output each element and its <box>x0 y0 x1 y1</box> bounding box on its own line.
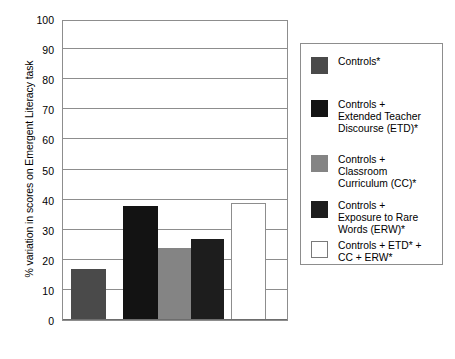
gridline <box>63 108 287 109</box>
legend-item-label: Controls + Extended Teacher Discourse (E… <box>338 99 421 136</box>
y-axis-tick-labels: 0102030405060708090100 <box>0 20 58 321</box>
legend-item: Controls* <box>311 56 380 74</box>
y-axis-tick-label: 20 <box>6 255 58 267</box>
gridline <box>63 169 287 170</box>
gridline <box>63 138 287 139</box>
legend-item-label: Controls* <box>338 56 380 68</box>
plot-area <box>62 20 288 321</box>
y-axis-tick-label: 50 <box>6 165 58 177</box>
legend-item-label: Controls + Classroom Curriculum (CC)* <box>338 154 416 191</box>
legend-item-label: Controls + ETD* + CC + ERW* <box>338 240 422 264</box>
legend-swatch <box>311 155 328 172</box>
bar <box>71 269 106 320</box>
legend-swatch <box>311 100 328 117</box>
gridline <box>63 78 287 79</box>
legend-item: Controls + Extended Teacher Discourse (E… <box>311 99 421 136</box>
legend-box: Controls*Controls + Extended Teacher Dis… <box>300 43 443 265</box>
y-axis-tick-label: 10 <box>6 285 58 297</box>
y-axis-tick-label: 60 <box>6 134 58 146</box>
legend-item-label: Controls + Exposure to Rare Words (ERW)* <box>338 200 418 237</box>
legend-item: Controls + ETD* + CC + ERW* <box>311 240 422 264</box>
bar-chart-figure: % variation in scores on Emergent Litera… <box>0 0 455 359</box>
gridline <box>63 48 287 49</box>
y-axis-tick-label: 0 <box>6 315 58 327</box>
y-axis-tick-label: 90 <box>6 44 58 56</box>
bar <box>123 206 158 320</box>
legend-swatch <box>311 57 328 74</box>
bar <box>191 239 224 320</box>
bar <box>231 203 266 320</box>
legend-swatch <box>311 201 328 218</box>
y-axis-tick-label: 40 <box>6 195 58 207</box>
y-axis-tick-label: 80 <box>6 74 58 86</box>
legend-swatch <box>311 241 328 258</box>
gridline <box>63 199 287 200</box>
x-axis-line <box>63 319 287 320</box>
bar <box>158 248 191 320</box>
legend-item: Controls + Classroom Curriculum (CC)* <box>311 154 416 191</box>
legend-item: Controls + Exposure to Rare Words (ERW)* <box>311 200 418 237</box>
y-axis-tick-label: 100 <box>6 14 58 26</box>
y-axis-tick-label: 30 <box>6 225 58 237</box>
y-axis-tick-label: 70 <box>6 104 58 116</box>
